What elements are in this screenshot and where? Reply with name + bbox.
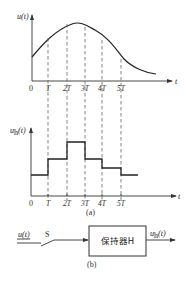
top-dashed-guides (48, 24, 121, 200)
top-tick-3T: 3T (80, 84, 90, 93)
caption-b: (b) (87, 260, 97, 269)
top-tick-T: T (46, 84, 51, 93)
switch-blade (41, 240, 54, 246)
holder-block-label: 保持器H (101, 236, 134, 246)
continuous-signal-curve (32, 23, 156, 74)
sample-hold-diagram: u(t) t 0 T 2T 3T 4T 5T uh(t) t 0 T 2T 3T… (0, 0, 186, 282)
bottom-x-label: t (178, 192, 181, 201)
top-tick-5T: 5T (117, 84, 126, 93)
output-label: uh(t) (150, 229, 166, 240)
bottom-tick-3T: 3T (80, 199, 90, 208)
input-label: u(t) (18, 230, 30, 239)
top-x-label: t (175, 77, 178, 86)
held-signal-staircase (31, 142, 138, 175)
top-origin-label: 0 (29, 84, 33, 93)
bottom-plot: uh(t) t 0 T 2T 3T 4T 5T (a) (10, 126, 181, 217)
caption-a: (a) (86, 208, 95, 217)
switch-label: S (45, 230, 49, 239)
block-diagram: u(t) S 保持器H uh(t) (b) (17, 226, 175, 269)
bottom-y-label: uh(t) (10, 126, 26, 137)
bottom-origin-label: 0 (29, 199, 33, 208)
bottom-tick-5T: 5T (117, 199, 126, 208)
top-tick-4T: 4T (98, 84, 107, 93)
bottom-tick-4T: 4T (98, 199, 107, 208)
bottom-tick-2T: 2T (63, 199, 72, 208)
bottom-tick-T: T (46, 199, 51, 208)
top-plot: u(t) t 0 T 2T 3T 4T 5T (17, 12, 178, 200)
top-tick-2T: 2T (63, 84, 72, 93)
top-y-label: u(t) (17, 12, 29, 21)
